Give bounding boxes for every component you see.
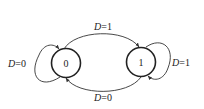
- state-0-label: 0: [64, 58, 69, 69]
- state-1-label: 1: [139, 57, 144, 68]
- edge-label-1-to-0: D=0: [93, 92, 112, 103]
- diagram-svg: D=1 D=0 D=0 D=1 0 1: [0, 0, 204, 109]
- transition-0-to-1: [64, 34, 139, 49]
- edge-label-self-0: D=0: [7, 58, 26, 69]
- transition-1-to-0: [66, 77, 141, 91]
- state-diagram: D=1 D=0 D=0 D=1 0 1: [0, 0, 204, 109]
- edge-label-self-1: D=1: [171, 57, 190, 68]
- edge-label-0-to-1: D=1: [93, 21, 112, 32]
